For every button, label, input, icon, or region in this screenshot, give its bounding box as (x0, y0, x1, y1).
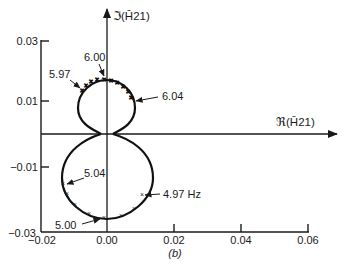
annotation-5-97: 5.97 (49, 68, 70, 80)
y-tick-label: 0.03 (17, 35, 38, 47)
panel-label: (b) (168, 247, 182, 259)
annotation-6-00: 6.00 (84, 51, 105, 63)
y-axis-title: ℑ(H̄21) (113, 10, 150, 22)
svg-text:×: × (95, 76, 99, 83)
x-tick-label: 0.02 (163, 234, 184, 246)
svg-text:×: × (102, 76, 106, 83)
svg-text:×: × (65, 190, 69, 197)
svg-text:×: × (121, 83, 125, 90)
annotation-5-04: 5.04 (84, 167, 105, 179)
svg-text:×: × (61, 180, 65, 187)
svg-text:×: × (73, 201, 77, 208)
x-axis-title: ℜ(H̄21) (276, 116, 315, 128)
annotation-6-04: 6.04 (162, 90, 183, 102)
svg-text:×: × (109, 77, 113, 84)
svg-text:×: × (119, 212, 123, 219)
svg-text:×: × (84, 82, 88, 89)
svg-text:×: × (115, 79, 119, 86)
y-tick-label: 0.01 (17, 95, 38, 107)
svg-text:×: × (87, 210, 91, 217)
axes-frame (41, 40, 309, 232)
y-tick-label: −0.01 (10, 161, 38, 173)
svg-text:×: × (102, 214, 106, 221)
annotation-5-00: 5.00 (55, 219, 76, 231)
svg-text:×: × (129, 94, 133, 101)
svg-text:×: × (140, 191, 144, 198)
annotation-4-97-hz: 4.97 Hz (163, 188, 201, 200)
x-tick-label: −0.02 (28, 234, 56, 246)
x-tick-label: 0.06 (297, 234, 318, 246)
x-tick-label: 0.04 (230, 234, 251, 246)
lower-loop-markers: × × × × × × × × (61, 180, 144, 221)
svg-text:×: × (89, 78, 93, 85)
nyquist-chart: 0.03 0.01 −0.01 −0.03 −0.02 0.00 0.02 0.… (0, 0, 347, 275)
svg-text:×: × (132, 205, 136, 212)
x-tick-label: 0.00 (96, 234, 117, 246)
